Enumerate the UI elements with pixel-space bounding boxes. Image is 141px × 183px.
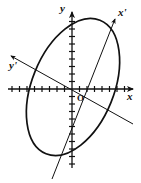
rotated-axes-ellipse-figure: y x' y' x O bbox=[0, 0, 141, 183]
y-prime-axis-label: y' bbox=[9, 60, 17, 71]
x-prime-axis-label: x' bbox=[118, 7, 127, 18]
x-axis-label: x bbox=[127, 91, 133, 102]
figure-canvas bbox=[0, 0, 141, 183]
origin-label: O bbox=[77, 94, 84, 103]
y-axis-label: y bbox=[60, 3, 65, 14]
